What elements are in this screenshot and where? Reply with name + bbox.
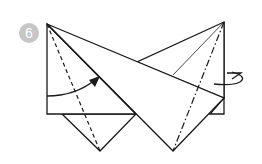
fold-diagram-svg <box>0 0 262 164</box>
bottom-left-diamond <box>62 114 136 151</box>
origami-diagram: 6 <box>0 0 262 164</box>
